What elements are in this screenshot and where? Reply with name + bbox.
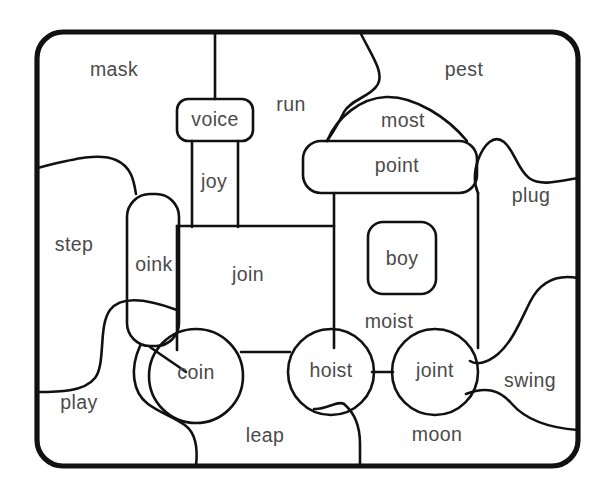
curve-wheel-mid-tail — [314, 403, 344, 409]
coloring-puzzle-page: mask voice run pest most point joy plug … — [0, 0, 611, 494]
word-joy: joy — [200, 170, 227, 192]
word-most: most — [381, 109, 425, 131]
train-boiler-group — [177, 226, 393, 372]
word-leap: leap — [246, 424, 284, 446]
word-moon: moon — [412, 423, 462, 445]
word-run: run — [276, 93, 305, 115]
curve-bottom-right — [466, 390, 578, 430]
word-pest: pest — [445, 58, 484, 80]
word-moist: moist — [365, 310, 414, 332]
word-oink: oink — [135, 253, 172, 275]
puzzle-svg: mask voice run pest most point joy plug … — [0, 0, 611, 494]
word-boy: boy — [386, 247, 419, 269]
rounded-frame — [37, 32, 578, 466]
word-play: play — [60, 391, 97, 413]
word-mask: mask — [90, 58, 138, 80]
background-curves-group — [37, 32, 578, 466]
word-plug: plug — [512, 184, 550, 206]
word-join: join — [231, 263, 264, 285]
word-joint: joint — [415, 359, 454, 381]
word-hoist: hoist — [309, 359, 352, 381]
curve-left-upper — [37, 157, 136, 194]
word-voice: voice — [191, 108, 239, 130]
word-step: step — [55, 233, 93, 255]
curve-right-lower — [470, 277, 578, 363]
word-labels-group: mask voice run pest most point joy plug … — [55, 58, 556, 446]
word-point: point — [375, 154, 419, 176]
word-swing: swing — [504, 369, 556, 391]
word-coin: coin — [177, 361, 214, 383]
